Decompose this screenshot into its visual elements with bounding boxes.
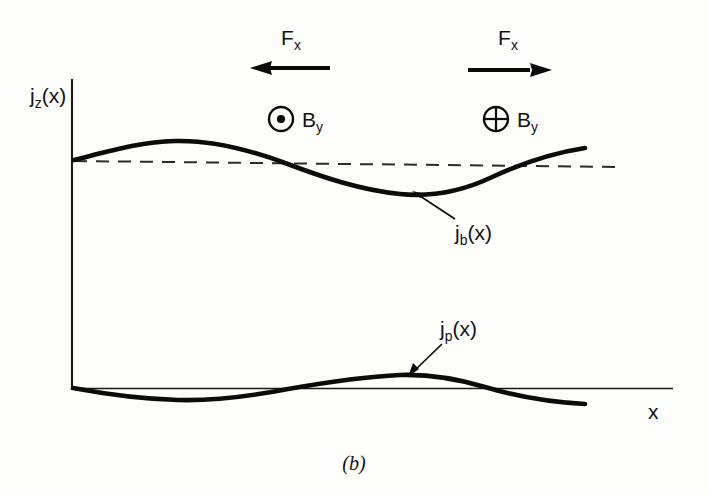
y-axis-label: jz(x) [29,84,66,111]
force-left-label: Fx [281,26,301,53]
field-out-label: By [302,108,323,135]
field-into-page-icon [484,107,508,131]
figure-caption: (b) [342,452,366,475]
jp-pointer [408,344,442,377]
figure-container: Fx Fx By By jz(x) [0,0,709,495]
curve-jp [73,375,585,404]
jp-curve-label: jp(x) [439,317,477,344]
force-arrow-right-head [530,63,552,77]
jb-curve-label: jb(x) [454,221,492,248]
jb-baseline-dashed [74,161,622,167]
axes-group [72,80,673,389]
jb-pointer-line [420,196,455,219]
force-right-label: Fx [498,26,518,53]
force-arrow-right [468,63,552,77]
field-in-label: By [517,108,538,135]
x-axis-label: x [648,400,659,423]
jp-pointer-line [414,344,442,371]
force-arrow-left-head [250,61,272,75]
curve-jb [74,141,585,195]
physics-figure: Fx Fx By By jz(x) [0,0,709,495]
force-arrow-left [250,61,330,75]
field-out-of-page-icon [269,107,293,131]
